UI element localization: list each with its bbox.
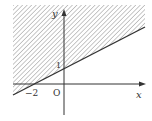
y-tick-label: 1	[56, 61, 61, 70]
shaded-region	[13, 5, 145, 97]
origin-label: O	[53, 88, 60, 98]
x-axis-arrow-icon	[139, 82, 146, 87]
y-axis-label: y	[51, 8, 58, 19]
inequality-graph: y x O 1 −2	[0, 0, 152, 121]
x-axis-label: x	[136, 89, 142, 100]
x-tick-label: −2	[25, 88, 38, 98]
